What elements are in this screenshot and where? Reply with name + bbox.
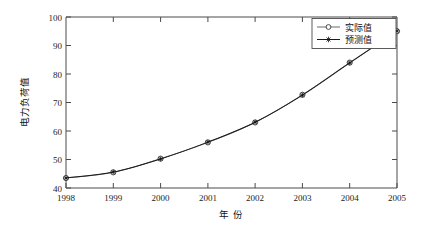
- y-axis-labels: 100 90 80 70 60 50 40: [49, 13, 63, 194]
- series-layer: [63, 29, 399, 181]
- x-label-2002: 2002: [246, 193, 264, 203]
- y-label-100: 100: [49, 13, 63, 23]
- y-label-70: 70: [53, 98, 63, 108]
- data-point-marker: [347, 60, 352, 65]
- line-chart: 100 90 80 70 60 50 40 1998: [0, 0, 423, 236]
- y-label-50: 50: [53, 155, 63, 165]
- data-point-marker: [64, 176, 69, 181]
- x-label-2003: 2003: [293, 193, 312, 203]
- x-label-1999: 1999: [104, 193, 123, 203]
- x-label-1998: 1998: [57, 193, 76, 203]
- data-point-marker: [300, 93, 305, 98]
- data-point-marker: [205, 140, 210, 145]
- x-axis-labels: 1998 1999 2000 2001 2002 2003 2004 2005: [57, 193, 407, 203]
- legend-label-pred: 预测值: [345, 34, 372, 45]
- y-label-60: 60: [53, 127, 63, 137]
- x-label-2000: 2000: [152, 193, 171, 203]
- y-axis-title: 电力负荷值: [19, 77, 30, 127]
- x-label-2005: 2005: [388, 193, 407, 203]
- x-label-2001: 2001: [199, 193, 217, 203]
- y-label-90: 90: [53, 41, 63, 51]
- x-axis-title: 年 份: [219, 209, 242, 220]
- legend-label-actual: 实际值: [345, 22, 372, 33]
- y-label-40: 40: [53, 184, 63, 194]
- legend-marker-star-icon: [326, 37, 332, 43]
- data-point-marker: [158, 157, 163, 162]
- data-point-marker: [111, 170, 116, 175]
- x-label-2004: 2004: [341, 193, 360, 203]
- chart-legend[interactable]: 实际值 预测值: [312, 19, 396, 49]
- legend-marker-circle-icon: [326, 25, 331, 30]
- series-line-predicted: [66, 31, 397, 178]
- data-point-marker: [253, 120, 258, 125]
- chart-figure: 100 90 80 70 60 50 40 1998: [0, 0, 423, 236]
- y-label-80: 80: [53, 70, 63, 80]
- series-line-actual: [66, 31, 397, 178]
